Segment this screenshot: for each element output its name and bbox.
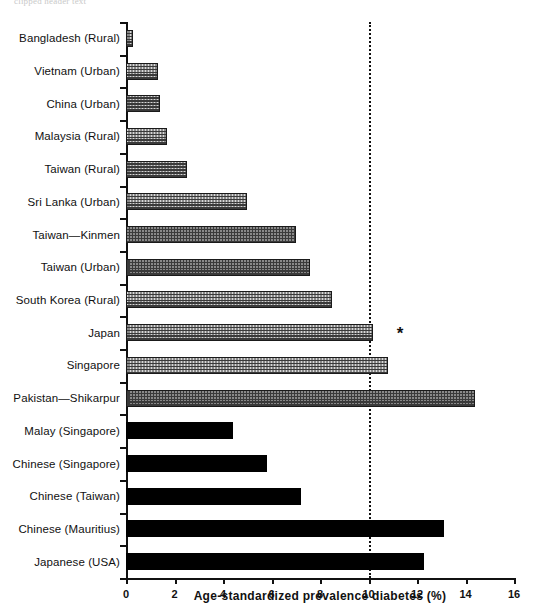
category-label: Sri Lanka (Urban) xyxy=(28,196,120,208)
x-axis-tick xyxy=(369,578,371,584)
category-label: Pakistan—Shikarpur xyxy=(13,392,120,404)
bar[interactable] xyxy=(126,259,310,276)
bar-row[interactable]: Malay (Singapore) xyxy=(126,414,514,447)
category-label: Malaysia (Rural) xyxy=(35,130,120,142)
bar[interactable] xyxy=(126,30,133,47)
category-label: Taiwan (Rural) xyxy=(44,163,120,175)
bar[interactable] xyxy=(126,291,332,308)
bar-row[interactable]: Pakistan—Shikarpur xyxy=(126,382,514,415)
bar[interactable] xyxy=(126,193,247,210)
category-label: Vietnam (Urban) xyxy=(34,65,120,77)
x-axis-title: Age-standardized prevalence diabetes (%) xyxy=(126,589,514,603)
bar-row[interactable]: Taiwan (Rural) xyxy=(126,153,514,186)
bar-row[interactable]: Singapore xyxy=(126,349,514,382)
category-label: Chinese (Mauritius) xyxy=(18,523,120,535)
x-axis-tick xyxy=(175,578,177,584)
category-label: Malay (Singapore) xyxy=(24,425,120,437)
bar[interactable] xyxy=(126,520,444,537)
x-axis-tick xyxy=(514,578,516,584)
bar[interactable] xyxy=(126,226,296,243)
bar-row[interactable]: Chinese (Mauritius) xyxy=(126,513,514,546)
x-axis-tick xyxy=(320,578,322,584)
category-label: Chinese (Singapore) xyxy=(13,458,120,470)
plot-area: 0246810121416 Bangladesh (Rural)Vietnam … xyxy=(126,22,514,578)
bar-row[interactable]: China (Urban) xyxy=(126,87,514,120)
bar-row[interactable]: Malaysia (Rural) xyxy=(126,120,514,153)
bar[interactable] xyxy=(126,128,167,145)
category-label: Chinese (Taiwan) xyxy=(30,490,120,502)
bar[interactable] xyxy=(126,161,187,178)
x-axis-tick xyxy=(126,578,128,584)
bar[interactable] xyxy=(126,357,388,374)
bar-row[interactable]: Taiwan (Urban) xyxy=(126,251,514,284)
bar[interactable] xyxy=(126,553,424,570)
bar[interactable] xyxy=(126,324,373,341)
category-label: China (Urban) xyxy=(46,98,120,110)
x-axis-tick xyxy=(417,578,419,584)
bar[interactable] xyxy=(126,63,158,80)
bar-row[interactable]: Sri Lanka (Urban) xyxy=(126,186,514,219)
x-axis-tick xyxy=(466,578,468,584)
bar-row[interactable]: Bangladesh (Rural) xyxy=(126,22,514,55)
x-axis-tick xyxy=(223,578,225,584)
clipped-header-artifact: clipped header text xyxy=(14,0,86,6)
category-label: Taiwan—Kinmen xyxy=(32,229,120,241)
bar-row[interactable]: Japanese (USA) xyxy=(126,545,514,578)
bar[interactable] xyxy=(126,390,475,407)
category-label: Japanese (USA) xyxy=(34,556,120,568)
category-label: Bangladesh (Rural) xyxy=(19,32,120,44)
bar[interactable] xyxy=(126,455,267,472)
bar-row[interactable]: South Korea (Rural) xyxy=(126,284,514,317)
bar-row[interactable]: Taiwan—Kinmen xyxy=(126,218,514,251)
bar-row[interactable]: Chinese (Singapore) xyxy=(126,447,514,480)
category-label: Singapore xyxy=(67,359,120,371)
bar-row[interactable]: Chinese (Taiwan) xyxy=(126,480,514,513)
bar[interactable] xyxy=(126,95,160,112)
bar-row[interactable]: Japan xyxy=(126,316,514,349)
category-label: Japan xyxy=(88,327,120,339)
category-label: Taiwan (Urban) xyxy=(41,261,120,273)
x-axis-tick xyxy=(272,578,274,584)
significance-asterisk: * xyxy=(397,324,404,341)
bar[interactable] xyxy=(126,422,233,439)
chart-figure: clipped header text 0246810121416 Bangla… xyxy=(0,0,533,616)
bar-row[interactable]: Vietnam (Urban) xyxy=(126,55,514,88)
category-label: South Korea (Rural) xyxy=(16,294,120,306)
bar[interactable] xyxy=(126,488,301,505)
